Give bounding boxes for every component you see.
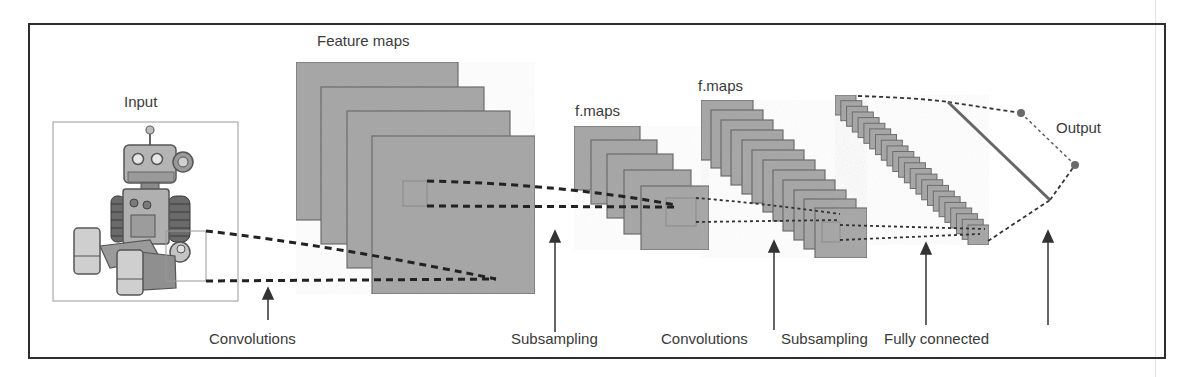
fully-connected-layer: [948, 102, 1050, 200]
fmaps-2-label: f.maps: [698, 77, 743, 94]
output-node-1: [1017, 109, 1025, 117]
stage-label-subsampling-2: Subsampling: [781, 330, 868, 347]
feature-maps-stack: [296, 62, 535, 294]
output-label: Output: [1056, 119, 1101, 136]
input-image: [53, 122, 238, 301]
cnn-diagram: Input Feature maps f.maps f.maps Output …: [0, 0, 1192, 377]
feature-maps-label: Feature maps: [317, 32, 410, 49]
output-node-2: [1071, 161, 1079, 169]
fmaps-conv2-stack: [701, 100, 867, 258]
input-label: Input: [124, 93, 157, 110]
stage-label-convolutions-2: Convolutions: [661, 330, 748, 347]
stage-label-convolutions-1: Convolutions: [209, 330, 296, 347]
fmaps-subsampled-stack: [574, 126, 709, 250]
diagram-graphics: [0, 0, 1192, 377]
fmaps-1-label: f.maps: [575, 102, 620, 119]
stage-label-subsampling-1: Subsampling: [511, 330, 598, 347]
stage-label-fully-connected: Fully connected: [884, 330, 989, 347]
